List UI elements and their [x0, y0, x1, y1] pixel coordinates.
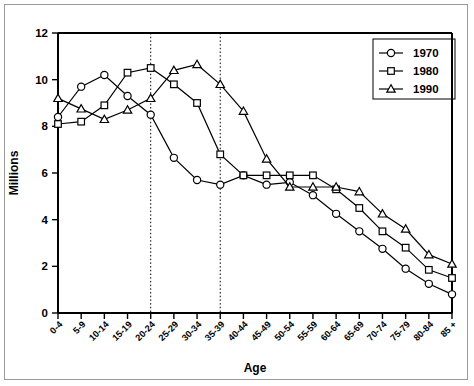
data-point-1980-25-29: [171, 81, 178, 88]
data-point-1980-70-74: [379, 228, 386, 235]
data-point-1980-45-49: [263, 172, 270, 179]
legend-marker-1970: [387, 49, 394, 56]
data-point-1970-70-74: [379, 245, 386, 252]
data-point-1970-55-59: [309, 192, 316, 199]
data-point-1990-15-19: [123, 106, 131, 113]
data-point-1990-5-9: [77, 105, 85, 112]
y-tick-label-0: 0: [42, 307, 48, 319]
x-tick-label-75-79: 75-79: [388, 319, 412, 343]
legend-label-1980: 1980: [413, 65, 439, 77]
data-point-1980-15-19: [124, 69, 131, 76]
data-point-1970-45-49: [263, 181, 270, 188]
data-point-1970-15-19: [124, 92, 131, 99]
data-point-1990-10-14: [100, 115, 108, 122]
x-tick-label-group: 0-45-910-1415-1920-2425-2930-3435-3940-4…: [48, 319, 458, 343]
population-by-age-chart: 024681012 0-45-910-1415-1920-2425-2930-3…: [0, 0, 474, 386]
data-point-1980-65-69: [356, 205, 363, 212]
data-point-1970-30-34: [193, 176, 200, 183]
x-axis-title: Age: [244, 361, 267, 375]
data-point-1970-0-4: [54, 113, 61, 120]
x-tick-label-80-84: 80-84: [412, 319, 436, 343]
y-tick-label-12: 12: [35, 27, 48, 39]
data-point-1980-85 +: [449, 275, 456, 282]
data-point-1990-85 +: [448, 260, 456, 267]
y-tick-label-8: 8: [42, 120, 49, 132]
y-axis-title: Millions: [7, 150, 21, 195]
y-tick-label-2: 2: [42, 260, 48, 272]
x-tick-label-35-39: 35-39: [203, 319, 227, 343]
data-point-1970-20-24: [147, 111, 154, 118]
data-point-1970-5-9: [78, 83, 85, 90]
data-point-1980-5-9: [78, 118, 85, 125]
series-line-1970: [58, 75, 452, 294]
data-point-1970-35-39: [217, 181, 224, 188]
legend-label-1990: 1990: [413, 83, 439, 95]
legend-label-1970: 1970: [413, 47, 439, 59]
data-point-1970-80-84: [425, 280, 432, 287]
axes-group: [58, 33, 452, 313]
data-point-1990-30-34: [193, 60, 201, 67]
x-tick-label-40-44: 40-44: [226, 319, 250, 343]
data-point-1980-50-54: [286, 172, 293, 179]
legend-marker-1980: [388, 68, 395, 75]
data-point-1990-0-4: [54, 94, 62, 101]
x-tick-label-85 +: 85 +: [439, 319, 459, 339]
x-tick-label-5-9: 5-9: [71, 319, 87, 335]
x-tick-label-45-49: 45-49: [249, 319, 273, 343]
y-tick-label-group: 024681012: [35, 27, 48, 319]
data-point-1980-0-4: [55, 121, 62, 128]
data-point-1970-10-14: [101, 71, 108, 78]
x-tick-label-70-74: 70-74: [365, 319, 389, 343]
x-tick-label-25-29: 25-29: [157, 319, 181, 343]
data-point-1970-65-69: [356, 228, 363, 235]
chart-canvas: 024681012 0-45-910-1415-1920-2425-2930-3…: [0, 0, 474, 386]
x-tick-label-0-4: 0-4: [48, 319, 65, 336]
x-tick-label-50-54: 50-54: [272, 319, 296, 343]
x-tick-label-65-69: 65-69: [342, 319, 366, 343]
y-tick-label-6: 6: [42, 167, 48, 179]
series-1980: [55, 65, 456, 282]
chart-legend: 197019801990: [373, 39, 455, 99]
data-point-1980-75-79: [402, 244, 409, 251]
x-tick-label-55-59: 55-59: [296, 319, 320, 343]
data-point-1980-35-39: [217, 151, 224, 158]
series-line-1990: [58, 65, 452, 265]
data-point-1980-80-84: [426, 267, 433, 274]
data-point-1970-75-79: [402, 265, 409, 272]
data-point-1980-10-14: [101, 102, 108, 109]
data-point-1970-60-64: [333, 210, 340, 217]
y-tick-label-10: 10: [35, 74, 48, 86]
data-point-1990-75-79: [401, 225, 409, 232]
x-tick-label-60-64: 60-64: [319, 319, 343, 343]
data-point-1980-40-44: [240, 172, 247, 179]
data-point-1980-55-59: [310, 172, 317, 179]
x-tick-label-20-24: 20-24: [133, 319, 157, 343]
data-point-1990-45-49: [262, 155, 270, 162]
data-point-1980-30-34: [194, 100, 201, 107]
x-tick-label-15-19: 15-19: [110, 319, 134, 343]
x-tick-label-30-34: 30-34: [180, 319, 204, 343]
data-point-1970-25-29: [170, 154, 177, 161]
y-tick-label-4: 4: [42, 214, 49, 226]
series-1970: [54, 71, 455, 298]
data-point-1970-85 +: [448, 291, 455, 298]
data-point-1980-20-24: [147, 65, 154, 72]
data-series-group: [54, 60, 456, 298]
x-tick-label-10-14: 10-14: [87, 319, 111, 343]
